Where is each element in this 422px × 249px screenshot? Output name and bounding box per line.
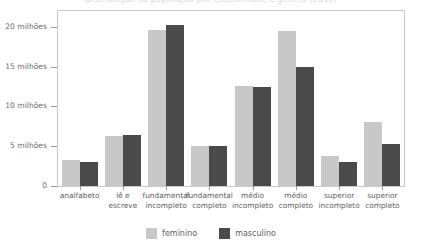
y-tick-mark	[51, 146, 57, 147]
legend-swatch-icon	[146, 228, 157, 239]
bar-feminino-6	[321, 156, 339, 186]
bar-masculino-6	[339, 162, 357, 186]
bar-masculino-7	[382, 144, 400, 186]
x-tick-mark	[382, 186, 383, 190]
y-tick-mark	[51, 67, 57, 68]
bar-group	[321, 11, 357, 186]
chart-title: Distribuição da população por escolarida…	[0, 0, 422, 5]
x-tick-mark	[80, 186, 81, 190]
y-tick-mark	[51, 27, 57, 28]
x-tick-mark	[339, 186, 340, 190]
legend-label: feminino	[162, 230, 197, 238]
bar-feminino-4	[235, 86, 253, 186]
legend-label: masculino	[235, 230, 276, 238]
bar-feminino-3	[191, 146, 209, 186]
bar-group	[148, 11, 184, 186]
x-tick-mark	[123, 186, 124, 190]
bar-masculino-0	[80, 162, 98, 186]
x-axis-labels: analfabetolê e escrevefundamental incomp…	[50, 191, 416, 221]
legend-item-feminino[interactable]: feminino	[146, 228, 197, 239]
x-tick-label: superior completo	[352, 191, 412, 210]
y-tick-label: 5 milhões	[10, 142, 47, 150]
legend-swatch-icon	[219, 228, 230, 239]
y-tick-label: 20 milhões	[5, 23, 47, 31]
bar-masculino-5	[296, 67, 314, 186]
y-axis: 05 milhões10 milhões15 milhões20 milhões	[0, 0, 57, 249]
bar-feminino-1	[105, 136, 123, 186]
y-tick-label: 15 milhões	[5, 63, 47, 71]
y-tick-label: 0	[42, 182, 47, 190]
bar-masculino-1	[123, 135, 141, 186]
bar-group	[364, 11, 400, 186]
x-tick-mark	[166, 186, 167, 190]
bar-group	[235, 11, 271, 186]
x-tick-mark	[253, 186, 254, 190]
chart-legend: femininomasculino	[0, 228, 422, 239]
bar-group	[278, 11, 314, 186]
y-tick-mark	[51, 106, 57, 107]
bar-masculino-4	[253, 87, 271, 186]
legend-item-masculino[interactable]: masculino	[219, 228, 276, 239]
bar-masculino-2	[166, 25, 184, 186]
bar-group	[62, 11, 98, 186]
y-tick-mark	[51, 186, 57, 187]
bar-feminino-7	[364, 122, 382, 186]
bar-feminino-5	[278, 31, 296, 186]
bar-masculino-3	[209, 146, 227, 186]
x-tick-mark	[209, 186, 210, 190]
bar-feminino-2	[148, 30, 166, 186]
bar-group	[105, 11, 141, 186]
bar-group	[191, 11, 227, 186]
y-tick-label: 10 milhões	[5, 103, 47, 111]
x-tick-mark	[296, 186, 297, 190]
bar-feminino-0	[62, 160, 80, 186]
bars-layer	[58, 11, 404, 186]
bar-chart-figure: Distribuição da população por escolarida…	[0, 0, 422, 249]
